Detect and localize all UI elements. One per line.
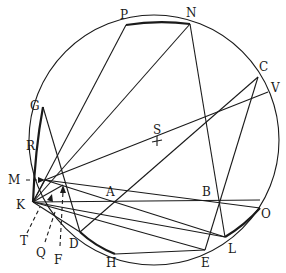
line-m-l <box>45 180 225 237</box>
label-q: Q <box>36 246 46 260</box>
label-n: N <box>186 6 197 20</box>
geometry-diagram: P N C V G R M K A B S O L E H D T Q F <box>0 0 286 273</box>
label-b: B <box>202 185 211 199</box>
label-l: L <box>228 242 236 256</box>
line-d-c <box>80 77 258 232</box>
label-f: F <box>54 253 62 267</box>
arc-d-h <box>80 232 115 254</box>
label-v: V <box>270 81 280 95</box>
line-k-e <box>33 202 205 250</box>
arc-l-o <box>225 208 260 237</box>
line-p-k <box>33 25 126 202</box>
label-r: R <box>26 139 36 153</box>
label-h: H <box>106 256 116 270</box>
label-d: D <box>69 237 79 251</box>
label-a: A <box>105 185 115 199</box>
label-k: K <box>16 198 26 212</box>
line-m-o <box>45 180 260 208</box>
label-g: G <box>30 99 40 113</box>
label-m: M <box>8 173 20 187</box>
line-k-o <box>33 200 260 202</box>
line-n-l <box>190 24 225 237</box>
arrow-q <box>47 194 53 202</box>
leader-t <box>27 207 40 233</box>
label-t: T <box>20 234 28 248</box>
label-c: C <box>259 60 268 74</box>
label-e: E <box>201 256 210 270</box>
arc-p-n <box>126 22 190 25</box>
line-h-e <box>115 250 205 254</box>
leader-q <box>45 212 55 242</box>
label-o: O <box>261 207 271 221</box>
label-s: S <box>153 123 161 137</box>
circle <box>29 15 279 265</box>
label-p: P <box>120 8 128 22</box>
